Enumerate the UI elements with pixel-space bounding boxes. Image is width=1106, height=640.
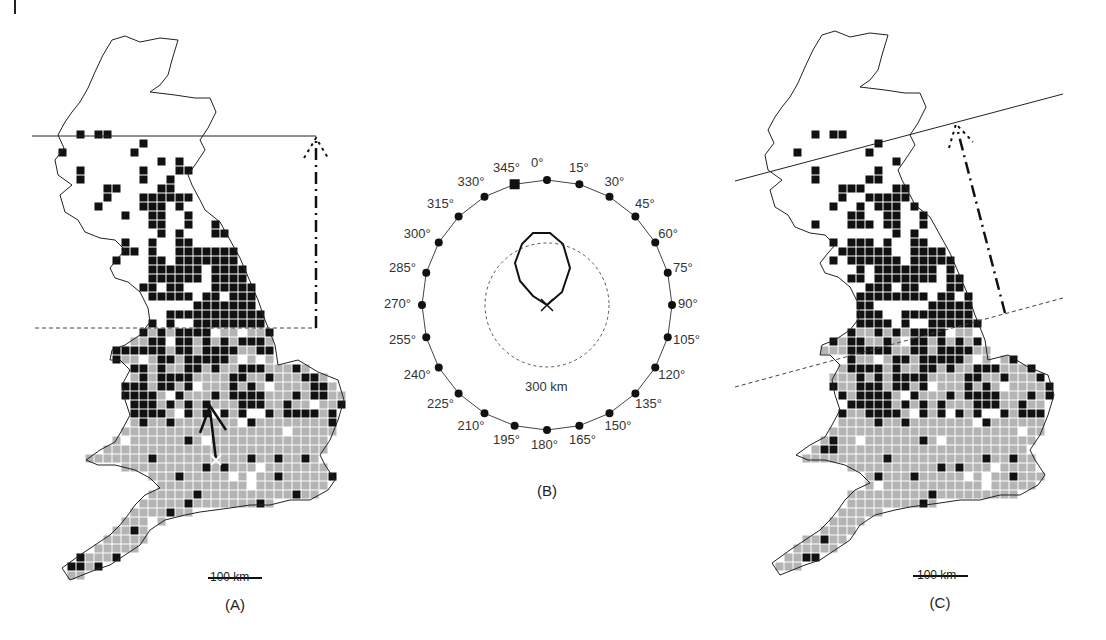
angle-tick-label: 180°: [531, 437, 558, 452]
panel-label-b: (B): [517, 482, 577, 499]
polar-direction-plot: [370, 0, 730, 620]
angle-tick-label: 195°: [493, 432, 520, 447]
angle-tick-label: 60°: [658, 226, 678, 241]
gb-distribution-map-c: [735, 0, 1106, 620]
angle-tick-label: 225°: [427, 396, 454, 411]
angle-tick-label: 345°: [493, 160, 520, 175]
angle-tick-label: 15°: [569, 160, 589, 175]
angle-tick-label: 30°: [605, 174, 625, 189]
polar-plot-panel-b: 0°15°30°45°60°75°90°105°120°135°150°165°…: [370, 0, 730, 620]
panel-label-c: (C): [910, 594, 970, 611]
angle-tick-label: 330°: [458, 174, 485, 189]
angle-tick-label: 300°: [404, 226, 431, 241]
angle-tick-label: 120°: [658, 367, 685, 382]
angle-tick-label: 210°: [458, 418, 485, 433]
angle-tick-label: 105°: [673, 332, 700, 347]
map-panel-c: 100 km (C): [735, 0, 1106, 620]
panel-label-a: (A): [205, 596, 265, 613]
angle-tick-label: 165°: [569, 432, 596, 447]
scale-bar-label-c: 100 km: [917, 568, 956, 582]
angle-tick-label: 75°: [673, 260, 693, 275]
map-panel-a: 100 km (A): [0, 0, 370, 620]
angle-tick-label: 240°: [404, 367, 431, 382]
angle-tick-label: 270°: [384, 296, 411, 311]
angle-tick-label: 135°: [635, 396, 662, 411]
angle-tick-label: 90°: [678, 296, 698, 311]
angle-tick-label: 285°: [389, 260, 416, 275]
angle-tick-label: 150°: [605, 418, 632, 433]
angle-tick-label: 315°: [427, 196, 454, 211]
angle-tick-label: 255°: [389, 332, 416, 347]
angle-tick-label: 0°: [531, 155, 543, 170]
scale-bar-label-a: 100 km: [210, 570, 249, 584]
angle-tick-label: 45°: [635, 196, 655, 211]
radius-label: 300 km: [525, 379, 568, 394]
gb-distribution-map-a: [0, 0, 370, 620]
